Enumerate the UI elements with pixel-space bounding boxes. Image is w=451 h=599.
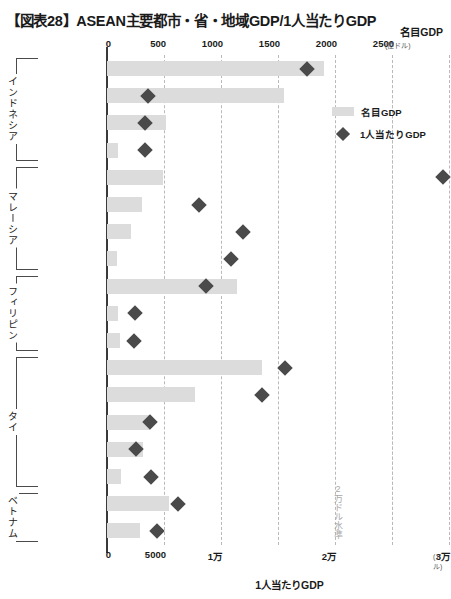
diamond-gdp-per-capita — [223, 251, 239, 267]
top-axis-unit: (億ドル) — [385, 40, 411, 50]
diamond-gdp-per-capita — [254, 387, 270, 403]
legend-bar-swatch — [332, 107, 354, 116]
diamond-gdp-per-capita — [235, 224, 251, 240]
chart-row — [107, 300, 443, 327]
bar-nominal-gdp — [107, 333, 120, 348]
diamond-gdp-per-capita — [170, 496, 186, 512]
bar-nominal-gdp — [107, 523, 140, 538]
bottom-tick-1万: 1万 — [208, 549, 223, 563]
diamond-gdp-per-capita — [277, 360, 293, 376]
chart-row — [107, 191, 443, 218]
chart-row — [107, 245, 443, 272]
bar-nominal-gdp — [107, 469, 121, 484]
chart-row — [107, 55, 443, 82]
bar-nominal-gdp — [107, 224, 131, 239]
group-bracket-ベトナム: ベトナム — [16, 493, 38, 541]
bar-nominal-gdp — [107, 88, 284, 103]
bar-nominal-gdp — [107, 251, 117, 266]
legend-item-bar: 名目GDP — [332, 103, 426, 120]
chart-row — [107, 381, 443, 408]
group-label: インドネシア — [4, 74, 19, 144]
bottom-tick-2万: 2万 — [322, 549, 337, 563]
legend: 名目GDP 1人当たりGDP — [332, 103, 426, 147]
bar-nominal-gdp — [107, 170, 163, 185]
top-tick-500: 500 — [150, 38, 166, 49]
diamond-gdp-per-capita — [144, 469, 160, 485]
chart-row — [107, 354, 443, 381]
bar-nominal-gdp — [107, 61, 324, 76]
group-bracket-マレーシア: マレーシア — [16, 167, 38, 270]
bar-nominal-gdp — [107, 143, 118, 158]
chart-row — [107, 273, 443, 300]
top-tick-2000: 2000 — [316, 38, 337, 49]
legend-diamond-swatch — [336, 126, 350, 140]
chart-row — [107, 218, 443, 245]
bottom-tick-0: 0 — [106, 549, 111, 560]
bar-nominal-gdp — [107, 360, 262, 375]
top-tick-1500: 1500 — [259, 38, 280, 49]
chart-row — [107, 517, 443, 544]
group-bracket-フィリピン: フィリピン — [16, 276, 38, 352]
group-bracket-インドネシア: インドネシア — [16, 58, 38, 161]
gridline-30000 — [449, 55, 450, 545]
top-tick-0: 0 — [106, 38, 111, 49]
legend-bar-label: 名目GDP — [361, 105, 402, 119]
bar-nominal-gdp — [107, 496, 169, 511]
bottom-tick-5000: 5000 — [145, 549, 166, 560]
legend-item-diamond: 1人当たりGDP — [332, 125, 426, 142]
group-label: ベトナム — [4, 493, 19, 541]
bar-nominal-gdp — [107, 197, 142, 212]
chart-row — [107, 463, 443, 490]
chart-row — [107, 164, 443, 191]
bottom-axis-unit: (ドル) — [433, 551, 449, 571]
group-bracket-タイ: タイ — [16, 357, 38, 487]
bottom-axis-caption: 1人当たりGDP — [0, 577, 449, 592]
diamond-gdp-per-capita — [127, 333, 143, 349]
chart-row — [107, 436, 443, 463]
diamond-gdp-per-capita — [127, 306, 143, 322]
group-label: マレーシア — [4, 189, 19, 248]
threshold-annotation: 2万ドル水準 — [332, 484, 345, 539]
chart-row — [107, 490, 443, 517]
diamond-gdp-per-capita — [192, 197, 208, 213]
diamond-gdp-per-capita — [137, 142, 153, 158]
top-tick-1000: 1000 — [202, 38, 223, 49]
page-title: 【図表28】ASEAN主要都市・省・地域GDP/1人当たりGDP — [6, 9, 376, 30]
diamond-gdp-per-capita — [149, 523, 165, 539]
group-label: タイ — [4, 409, 19, 435]
bar-nominal-gdp — [107, 306, 118, 321]
chart-row — [107, 327, 443, 354]
chart-row — [107, 409, 443, 436]
bar-nominal-gdp — [107, 279, 237, 294]
bar-nominal-gdp — [107, 387, 195, 402]
top-axis-caption: 名目GDP — [400, 24, 443, 39]
group-label: フィリピン — [4, 284, 19, 343]
legend-diamond-label: 1人当たりGDP — [360, 127, 426, 141]
